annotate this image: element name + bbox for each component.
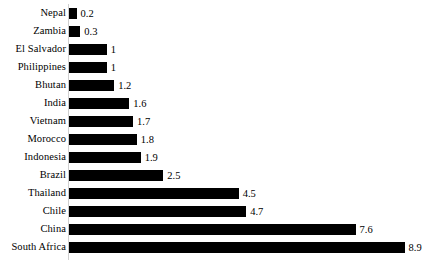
category-label: El Salvador bbox=[0, 40, 66, 58]
bar-with-value: 1.6 bbox=[69, 94, 146, 112]
bar-row: Indonesia1.9 bbox=[0, 148, 437, 166]
bar bbox=[69, 62, 107, 73]
category-label: Philippines bbox=[0, 58, 66, 76]
bar bbox=[69, 44, 107, 55]
plot-area: Nepal0.2Zambia0.3El Salvador1Philippines… bbox=[0, 0, 437, 264]
bar-value-label: 1.9 bbox=[145, 152, 158, 163]
bar-row: India1.6 bbox=[0, 94, 437, 112]
bar bbox=[69, 134, 137, 145]
bar-row: Bhutan1.2 bbox=[0, 76, 437, 94]
bar-value-label: 1 bbox=[111, 62, 116, 73]
category-label: Morocco bbox=[0, 130, 66, 148]
bar-with-value: 0.3 bbox=[69, 22, 97, 40]
bar bbox=[69, 188, 239, 199]
bar-with-value: 1 bbox=[69, 58, 116, 76]
bar-value-label: 1.2 bbox=[118, 80, 131, 91]
bar-value-label: 2.5 bbox=[167, 170, 180, 181]
bar-with-value: 1.7 bbox=[69, 112, 150, 130]
bar-row: South Africa8.9 bbox=[0, 238, 437, 256]
bar bbox=[69, 170, 163, 181]
bar-with-value: 0.2 bbox=[69, 4, 94, 22]
bar-row: Zambia0.3 bbox=[0, 22, 437, 40]
bar-value-label: 0.3 bbox=[84, 26, 97, 37]
bar-with-value: 8.9 bbox=[69, 238, 422, 256]
bar-with-value: 4.7 bbox=[69, 202, 263, 220]
category-label: Nepal bbox=[0, 4, 66, 22]
category-label: Zambia bbox=[0, 22, 66, 40]
bar bbox=[69, 26, 80, 37]
bar bbox=[69, 116, 133, 127]
bar-row: Morocco1.8 bbox=[0, 130, 437, 148]
bar-value-label: 1 bbox=[111, 44, 116, 55]
bar-value-label: 4.5 bbox=[243, 188, 256, 199]
bar-value-label: 7.6 bbox=[360, 224, 373, 235]
category-label: Brazil bbox=[0, 166, 66, 184]
bar bbox=[69, 98, 129, 109]
category-label: Indonesia bbox=[0, 148, 66, 166]
category-label: Chile bbox=[0, 202, 66, 220]
bar-with-value: 7.6 bbox=[69, 220, 373, 238]
bar-chart: Nepal0.2Zambia0.3El Salvador1Philippines… bbox=[0, 0, 437, 264]
bar-with-value: 4.5 bbox=[69, 184, 256, 202]
bar-row: Philippines1 bbox=[0, 58, 437, 76]
bar-row: Thailand4.5 bbox=[0, 184, 437, 202]
bar-row: Chile4.7 bbox=[0, 202, 437, 220]
bar-row: Nepal0.2 bbox=[0, 4, 437, 22]
bar-row: El Salvador1 bbox=[0, 40, 437, 58]
category-label: South Africa bbox=[0, 238, 66, 256]
bar-value-label: 1.8 bbox=[141, 134, 154, 145]
category-label: Thailand bbox=[0, 184, 66, 202]
category-label: India bbox=[0, 94, 66, 112]
bar-value-label: 8.9 bbox=[409, 242, 422, 253]
bar-value-label: 1.7 bbox=[137, 116, 150, 127]
bar-with-value: 1.9 bbox=[69, 148, 158, 166]
bar bbox=[69, 242, 405, 253]
bar-row: China7.6 bbox=[0, 220, 437, 238]
bar bbox=[69, 8, 77, 19]
category-label: Bhutan bbox=[0, 76, 66, 94]
bar-with-value: 1.8 bbox=[69, 130, 154, 148]
bar bbox=[69, 206, 246, 217]
bar bbox=[69, 224, 356, 235]
category-label: Vietnam bbox=[0, 112, 66, 130]
category-label: China bbox=[0, 220, 66, 238]
bar-with-value: 1 bbox=[69, 40, 116, 58]
bar-row: Brazil2.5 bbox=[0, 166, 437, 184]
bar-value-label: 1.6 bbox=[133, 98, 146, 109]
bar bbox=[69, 80, 114, 91]
bar-with-value: 1.2 bbox=[69, 76, 131, 94]
bar-with-value: 2.5 bbox=[69, 166, 180, 184]
bar-row: Vietnam1.7 bbox=[0, 112, 437, 130]
bar-value-label: 0.2 bbox=[81, 8, 94, 19]
bar bbox=[69, 152, 141, 163]
bar-value-label: 4.7 bbox=[250, 206, 263, 217]
